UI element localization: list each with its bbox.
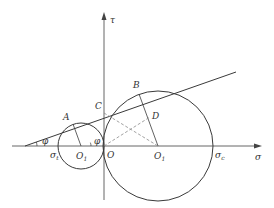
phi-left-label: φ (42, 136, 49, 146)
sigma-c-label: σc (215, 150, 225, 161)
dashed-C-O1 (104, 113, 158, 146)
point-A-label: A (62, 112, 70, 122)
phi-angle-arc-left (36, 142, 37, 146)
phi-center-label: φ (94, 136, 101, 146)
point-D-label: D (151, 111, 159, 121)
point-C-label: C (95, 101, 102, 111)
sigma-axis (12, 144, 262, 149)
center-O1-small-label: O1 (76, 151, 87, 162)
sigma-t-label: σt (50, 150, 59, 161)
origin-O-label: O (107, 150, 115, 160)
tau-axis-arrow-icon (102, 12, 107, 20)
tau-axis-label: τ (110, 15, 116, 25)
strength-envelope-line (25, 72, 236, 146)
sigma-axis-label: σ (255, 152, 262, 162)
sigma-axis-arrow-icon (254, 144, 262, 149)
mohr-circle-diagram: τ σ A B C D O O1 O1 σt σc φ φ (0, 0, 274, 208)
center-O1-large-label: O1 (154, 151, 165, 162)
dashed-O-D (104, 117, 150, 146)
point-B-label: B (132, 80, 140, 90)
tau-axis (102, 12, 107, 200)
phi-angle-arc-center (90, 143, 91, 146)
